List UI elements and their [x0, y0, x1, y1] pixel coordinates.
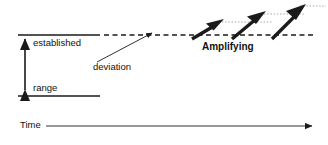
label-time-axis: Time	[20, 120, 41, 130]
label-range: range	[33, 83, 57, 93]
diagram-canvas: established range deviation Amplifying T…	[0, 0, 328, 145]
label-established: established	[33, 38, 81, 48]
diagram-graphics	[0, 0, 328, 145]
label-amplifying: Amplifying	[202, 42, 254, 52]
amplifying-arrow-1	[192, 19, 224, 39]
label-deviation: deviation	[93, 62, 131, 72]
deviation-arrow	[97, 33, 152, 62]
amplifying-arrow-3	[272, 4, 306, 39]
